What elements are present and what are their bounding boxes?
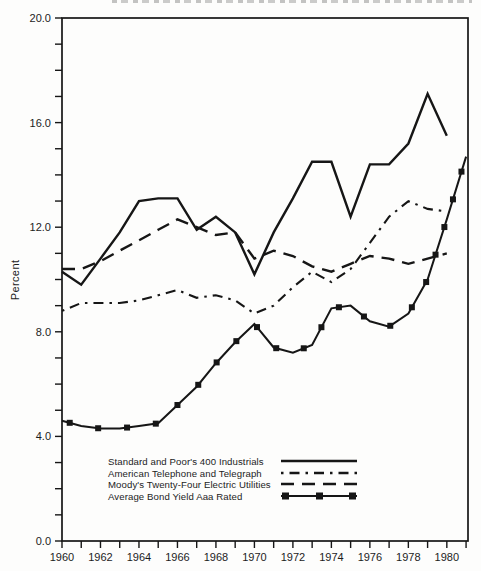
square-marker xyxy=(409,304,415,310)
square-marker xyxy=(174,402,180,408)
square-marker xyxy=(233,338,239,344)
figure: 1960196219641966196819701972197419761978… xyxy=(0,0,481,571)
x-tick-label: 1976 xyxy=(358,551,382,563)
square-marker xyxy=(95,425,101,431)
square-marker xyxy=(124,425,130,431)
legend-sample-aaa-bond-yield xyxy=(279,490,359,500)
square-marker xyxy=(361,314,367,320)
square-marker xyxy=(450,196,456,202)
series-line-moodys-electric-utilities xyxy=(62,219,447,271)
square-marker xyxy=(273,345,279,351)
square-marker xyxy=(153,421,159,427)
square-marker xyxy=(195,382,201,388)
legend-sample-moodys-electric-utilities xyxy=(279,478,359,488)
y-tick-label: 12.0 xyxy=(30,221,51,233)
y-tick-label: 8.0 xyxy=(36,326,51,338)
series-line-sp400-industrials xyxy=(62,94,447,285)
x-tick-label: 1966 xyxy=(165,551,189,563)
square-marker xyxy=(387,323,393,329)
y-tick-label: 20.0 xyxy=(30,12,51,24)
legend-sample-sp400-industrials xyxy=(279,455,359,465)
square-marker xyxy=(301,345,307,351)
x-tick-label: 1962 xyxy=(88,551,112,563)
legend-item-aaa-bond-yield: Average Bond Yield Aaa Rated xyxy=(108,489,398,501)
x-tick-label: 1968 xyxy=(204,551,228,563)
legend-item-moodys-electric-utilities: Moody's Twenty-Four Electric Utilities xyxy=(108,477,398,489)
square-marker xyxy=(423,279,429,285)
square-marker xyxy=(254,324,260,330)
legend: Standard and Poor's 400 IndustrialsAmeri… xyxy=(108,454,398,500)
x-tick-label: 1970 xyxy=(242,551,266,563)
legend-item-sp400-industrials: Standard and Poor's 400 Industrials xyxy=(108,454,398,466)
y-tick-label: 0.0 xyxy=(36,535,51,547)
x-tick-label: 1964 xyxy=(127,551,151,563)
x-tick-label: 1972 xyxy=(281,551,305,563)
x-tick-label: 1960 xyxy=(50,551,74,563)
square-marker xyxy=(441,224,447,230)
square-marker xyxy=(67,420,73,426)
y-tick-label: 4.0 xyxy=(36,430,51,442)
square-marker xyxy=(318,324,324,330)
square-marker xyxy=(433,252,439,258)
y-axis-label: Percent xyxy=(9,230,23,330)
x-tick-label: 1974 xyxy=(319,551,343,563)
square-marker xyxy=(336,304,342,310)
x-tick-label: 1978 xyxy=(396,551,420,563)
square-marker xyxy=(214,359,220,365)
legend-label: Average Bond Yield Aaa Rated xyxy=(108,491,242,502)
x-tick-label: 1980 xyxy=(435,551,459,563)
legend-item-att: American Telephone and Telegraph xyxy=(108,466,398,478)
y-tick-label: 16.0 xyxy=(30,117,51,129)
square-marker xyxy=(458,169,464,175)
legend-sample-att xyxy=(279,467,359,477)
series-line-aaa-bond-yield xyxy=(62,157,466,429)
